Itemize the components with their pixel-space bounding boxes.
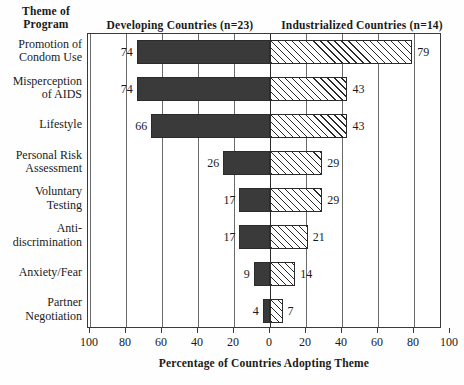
value-label-industrialized: 21 xyxy=(313,231,325,243)
category-label: Anti-discrimination xyxy=(0,222,82,249)
axis-tick xyxy=(89,328,90,333)
bar-developing xyxy=(137,40,270,64)
axis-tick xyxy=(161,328,162,333)
axis-tick xyxy=(269,328,270,333)
category-label-line: Partner xyxy=(0,296,82,310)
gridline xyxy=(126,34,127,327)
bar-industrialized xyxy=(270,77,347,101)
axis-tick xyxy=(377,328,378,333)
category-label-line: Voluntary xyxy=(0,185,82,199)
axis-tick-label: 80 xyxy=(393,335,433,350)
value-label-developing: 74 xyxy=(115,83,133,95)
bar-industrialized xyxy=(270,188,322,212)
theme-header-line: Program xyxy=(6,18,86,31)
bar-developing xyxy=(223,151,270,175)
category-label-line: Misperception xyxy=(0,75,82,89)
bar-developing xyxy=(254,262,270,286)
category-label-column: Promotion ofCondom UseMisperceptionof AI… xyxy=(0,33,82,328)
bar-industrialized xyxy=(270,114,347,138)
axis-tick xyxy=(233,328,234,333)
axis-tick-label: 80 xyxy=(105,335,145,350)
category-label-line: Anxiety/Fear xyxy=(0,266,82,280)
category-label-line: Negotiation xyxy=(0,310,82,324)
gridline xyxy=(378,34,379,327)
axis-tick xyxy=(125,328,126,333)
axis-tick-label: 60 xyxy=(141,335,181,350)
category-label: Misperceptionof AIDS xyxy=(0,75,82,102)
axis-tick-label: 0 xyxy=(249,335,289,350)
bar-industrialized xyxy=(270,299,283,323)
axis-tick-label: 100 xyxy=(429,335,464,350)
bar-developing xyxy=(151,114,270,138)
category-label-line: Lifestyle xyxy=(0,118,82,132)
axis-tick xyxy=(305,328,306,333)
value-label-industrialized: 43 xyxy=(352,83,364,95)
axis-tick-label: 40 xyxy=(177,335,217,350)
category-label: Anxiety/Fear xyxy=(0,266,82,280)
value-label-industrialized: 14 xyxy=(300,268,312,280)
x-axis-title: Percentage of Countries Adopting Theme xyxy=(87,357,441,369)
axis-tick-label: 60 xyxy=(357,335,397,350)
value-label-developing: 17 xyxy=(217,194,235,206)
category-label: Lifestyle xyxy=(0,118,82,132)
bar-industrialized xyxy=(270,151,322,175)
bidirectional-bar-chart: Theme ofProgram Developing Countries (n=… xyxy=(0,0,464,385)
bar-industrialized xyxy=(270,40,412,64)
value-label-developing: 66 xyxy=(129,120,147,132)
category-label-line: Assessment xyxy=(0,162,82,176)
axis-tick xyxy=(449,328,450,333)
bar-developing xyxy=(239,188,270,212)
value-label-industrialized: 7 xyxy=(288,305,294,317)
theme-of-program-header: Theme ofProgram xyxy=(6,5,86,31)
category-label: Promotion ofCondom Use xyxy=(0,38,82,65)
axis-tick xyxy=(341,328,342,333)
axis-tick-label: 20 xyxy=(213,335,253,350)
value-label-industrialized: 29 xyxy=(327,194,339,206)
bar-industrialized xyxy=(270,225,308,249)
gridline xyxy=(90,34,91,327)
value-label-developing: 17 xyxy=(217,231,235,243)
category-label: VoluntaryTesting xyxy=(0,185,82,212)
axis-tick-label: 100 xyxy=(69,335,109,350)
value-label-industrialized: 79 xyxy=(417,46,429,58)
value-label-developing: 74 xyxy=(115,46,133,58)
bar-industrialized xyxy=(270,262,295,286)
category-label-line: of AIDS xyxy=(0,88,82,102)
axis-tick-label: 40 xyxy=(321,335,361,350)
category-label-line: Testing xyxy=(0,199,82,213)
value-label-industrialized: 43 xyxy=(352,120,364,132)
value-label-developing: 4 xyxy=(241,305,259,317)
category-label-line: Personal Risk xyxy=(0,149,82,163)
value-label-developing: 9 xyxy=(232,268,250,280)
axis-tick-label: 20 xyxy=(285,335,325,350)
category-label-line: discrimination xyxy=(0,236,82,250)
bar-developing xyxy=(263,299,270,323)
category-label-line: Condom Use xyxy=(0,51,82,65)
theme-header-line: Theme of xyxy=(6,5,86,18)
axis-tick xyxy=(413,328,414,333)
bar-developing xyxy=(239,225,270,249)
industrialized-countries-header: Industrialized Countries (n=14) xyxy=(272,19,452,32)
value-label-industrialized: 29 xyxy=(327,157,339,169)
category-label: Personal RiskAssessment xyxy=(0,149,82,176)
category-label-line: Anti- xyxy=(0,222,82,236)
category-label: PartnerNegotiation xyxy=(0,296,82,323)
value-label-developing: 26 xyxy=(201,157,219,169)
bar-developing xyxy=(137,77,270,101)
category-label-line: Promotion of xyxy=(0,38,82,52)
gridline xyxy=(414,34,415,327)
plot-area: 74797443664326291729172191447 xyxy=(87,33,441,328)
axis-tick xyxy=(197,328,198,333)
developing-countries-header: Developing Countries (n=23) xyxy=(92,19,268,32)
